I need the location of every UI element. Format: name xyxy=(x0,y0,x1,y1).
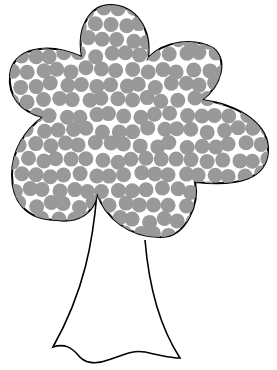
canopy-dot xyxy=(110,91,125,106)
canopy-dot xyxy=(57,226,72,241)
canopy-dot xyxy=(56,196,71,211)
canopy-dot xyxy=(239,135,254,150)
canopy-dot xyxy=(12,106,27,121)
canopy-dot xyxy=(141,65,156,80)
canopy-dot xyxy=(7,31,22,46)
canopy-dot xyxy=(161,17,176,32)
canopy-dot xyxy=(42,226,57,241)
canopy-dot xyxy=(88,135,103,150)
canopy-dot xyxy=(223,46,238,61)
canopy-dot xyxy=(184,2,199,17)
canopy-dot xyxy=(118,45,133,60)
canopy-dot xyxy=(246,213,261,228)
canopy-dot xyxy=(73,166,88,181)
canopy-dot xyxy=(170,214,185,229)
canopy-dot xyxy=(180,108,195,123)
canopy-dot xyxy=(72,226,87,241)
canopy-dot xyxy=(5,64,20,79)
canopy-dot xyxy=(125,212,140,227)
canopy-dot xyxy=(67,212,82,227)
canopy-dot xyxy=(6,214,21,229)
canopy-dot xyxy=(103,77,118,92)
canopy-dot xyxy=(223,19,238,34)
canopy-dot xyxy=(231,120,246,135)
canopy-dot xyxy=(28,136,43,151)
canopy-dot xyxy=(42,17,57,32)
canopy-dot xyxy=(258,214,273,229)
canopy-dot xyxy=(177,228,192,243)
canopy-dot xyxy=(146,198,161,213)
canopy-dot xyxy=(93,91,108,106)
canopy-dot xyxy=(191,168,206,183)
canopy-dot xyxy=(66,2,81,17)
canopy-dot xyxy=(232,214,247,229)
canopy-dot xyxy=(223,228,238,243)
canopy-dot xyxy=(192,78,207,93)
canopy-dot xyxy=(262,65,277,80)
canopy-dot xyxy=(35,182,50,197)
canopy-dot xyxy=(49,62,64,77)
canopy-dot xyxy=(156,62,171,77)
canopy-dot xyxy=(161,198,176,213)
canopy-dot xyxy=(96,153,111,168)
canopy-dot xyxy=(215,3,230,18)
canopy-dot xyxy=(229,34,244,49)
canopy-dot xyxy=(217,123,232,138)
canopy-dot xyxy=(71,137,86,152)
canopy-dot xyxy=(78,151,93,166)
canopy-dot xyxy=(179,18,194,33)
canopy-dot xyxy=(262,181,277,196)
canopy-dot xyxy=(164,76,179,91)
canopy-dot xyxy=(141,2,156,17)
canopy-dot xyxy=(81,30,96,45)
canopy-dot xyxy=(215,153,230,168)
canopy-dot xyxy=(148,16,163,31)
canopy-dot xyxy=(102,169,117,184)
canopy-dot xyxy=(36,92,51,107)
canopy-dot xyxy=(148,166,163,181)
canopy-dot xyxy=(252,107,267,122)
canopy-dot xyxy=(74,77,89,92)
canopy-dot xyxy=(236,77,251,92)
canopy-dot xyxy=(195,139,210,154)
canopy-dot xyxy=(63,64,78,79)
canopy-dot xyxy=(157,211,172,226)
canopy-dot xyxy=(195,17,210,32)
canopy-dot xyxy=(200,154,215,169)
canopy-dot xyxy=(105,46,120,61)
canopy-dot xyxy=(78,60,93,75)
canopy-dot xyxy=(229,184,244,199)
canopy-dot xyxy=(35,3,50,18)
canopy-dot xyxy=(201,212,216,227)
canopy-dot xyxy=(153,32,168,47)
canopy-dot xyxy=(225,78,240,93)
canopy-dot xyxy=(116,137,131,152)
canopy-dot xyxy=(207,108,222,123)
canopy-dot xyxy=(147,107,162,122)
canopy-dot xyxy=(42,108,57,123)
canopy-dot xyxy=(146,226,161,241)
canopy-dot xyxy=(210,230,225,245)
canopy-dot xyxy=(13,17,28,32)
canopy-dot xyxy=(239,226,254,241)
canopy-dot xyxy=(215,90,230,105)
canopy-dot xyxy=(153,94,168,109)
canopy-dot xyxy=(258,31,273,46)
canopy-dot xyxy=(88,16,103,31)
canopy-dot xyxy=(254,137,269,152)
canopy-dot xyxy=(251,78,266,93)
canopy-dot xyxy=(236,197,251,212)
canopy-dot xyxy=(161,167,176,182)
tree-illustration xyxy=(0,0,277,370)
canopy-dot xyxy=(26,19,41,34)
canopy-dot xyxy=(12,138,27,153)
canopy-dot xyxy=(216,32,231,47)
canopy-dot xyxy=(221,109,236,124)
canopy-dot xyxy=(238,47,253,62)
canopy-dot xyxy=(109,32,124,47)
canopy-dot xyxy=(244,5,259,20)
canopy-dot xyxy=(51,123,66,138)
canopy-dot xyxy=(221,169,236,184)
canopy-dot xyxy=(191,45,206,60)
canopy-dot xyxy=(139,35,154,50)
